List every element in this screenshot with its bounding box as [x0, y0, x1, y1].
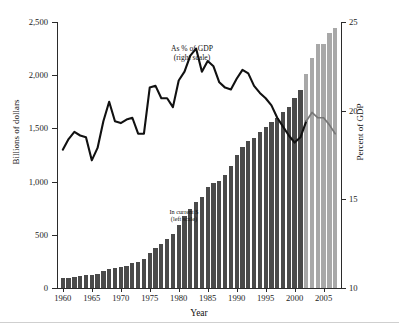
x-axis-tick [121, 288, 122, 292]
right-axis-tick [341, 199, 346, 200]
x-axis-tick [266, 288, 267, 292]
line-path-projected [306, 112, 335, 133]
x-axis-title: Year [57, 308, 341, 318]
right-axis-tick [341, 111, 346, 112]
left-axis-tick [52, 288, 57, 289]
right-axis-tick [341, 288, 346, 289]
right-axis-title-wrap: Percent of GDP [352, 0, 366, 266]
x-axis-tick-label: 2005 [304, 294, 344, 303]
left-axis-title-wrap: Billions of dollars [8, 0, 22, 266]
bottom-divider [0, 322, 399, 323]
x-axis-tick [150, 288, 151, 292]
x-axis-tick [63, 288, 64, 292]
left-axis-title: Billions of dollars [10, 100, 20, 165]
x-axis-tick [208, 288, 209, 292]
x-axis-tick [237, 288, 238, 292]
x-axis-tick [295, 288, 296, 292]
x-axis-tick [92, 288, 93, 292]
left-axis-tick-label: 0 [6, 284, 48, 293]
right-axis-tick [341, 22, 346, 23]
right-axis-line [341, 22, 342, 288]
right-axis-tick-label: 10 [349, 284, 389, 293]
x-axis-tick [179, 288, 180, 292]
plot-area: 05001,0001,5002,0002,500 10152025 196019… [57, 22, 341, 288]
right-axis-title: Percent of GDP [354, 104, 364, 161]
annotation-current-dollars: In current $ (left scale) [153, 208, 215, 223]
bottom-axis-line [57, 288, 341, 289]
x-axis-tick [324, 288, 325, 292]
annotation-percent-of-gdp: As % of GDP (right scale) [149, 44, 235, 62]
line-path-actual [63, 49, 306, 161]
figure-container: 05001,0001,5002,0002,500 10152025 196019… [0, 0, 399, 330]
